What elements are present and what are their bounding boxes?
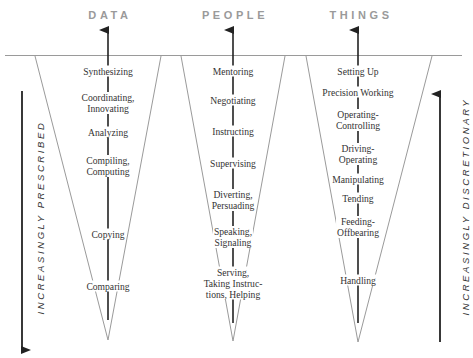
- people-step: Speaking,Signaling: [213, 226, 253, 248]
- people-step: Diverting,Persuading: [211, 189, 256, 211]
- things-step: Manipulating: [331, 174, 385, 185]
- diagram-lines: [0, 0, 473, 358]
- data-step: Comparing: [85, 281, 130, 292]
- things-step: Setting Up: [336, 66, 379, 77]
- column-title-data: DATA: [88, 9, 131, 21]
- data-step: Copying: [90, 229, 125, 240]
- things-step: Tending: [341, 193, 374, 204]
- column-title-things: THINGS: [329, 9, 392, 21]
- left-axis-label: INCREASINGLY PRESCRIBED: [35, 135, 46, 315]
- people-step: Serving,Taking Instruc-tions, Helping: [203, 267, 264, 300]
- data-step: Analyzing: [87, 127, 129, 138]
- people-step: Mentoring: [212, 66, 255, 77]
- data-step: Coordinating,Innovating: [80, 92, 135, 114]
- things-step: Operating-Controlling: [335, 109, 381, 131]
- things-step: Handling: [339, 275, 377, 286]
- things-step: Feeding-Offbearing: [336, 216, 380, 238]
- worker-function-hierarchy-diagram: DATA PEOPLE THINGS Synthesizing Coordina…: [0, 0, 473, 358]
- people-step: Negotiating: [209, 95, 256, 106]
- things-step: Precision Working: [321, 87, 394, 98]
- data-step: Synthesizing: [82, 66, 134, 77]
- column-title-people: PEOPLE: [202, 9, 268, 21]
- people-step: Instructing: [211, 126, 255, 137]
- data-step: Compiling,Computing: [85, 155, 130, 177]
- right-axis-label: INCREASINGLY DISCRETIONARY: [460, 116, 471, 316]
- things-step: Driving-Operating: [338, 143, 378, 165]
- people-step: Supervising: [209, 158, 257, 169]
